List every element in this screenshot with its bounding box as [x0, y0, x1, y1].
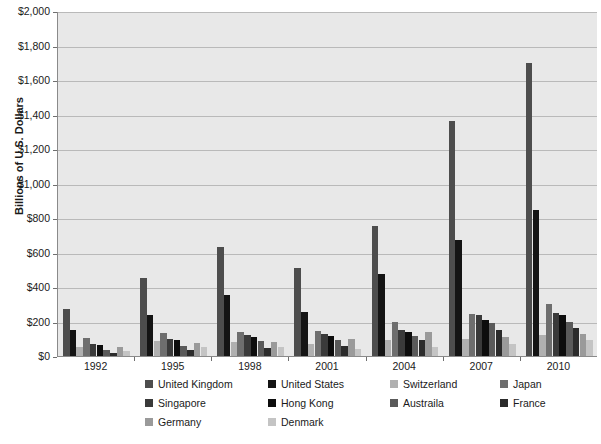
bar	[187, 350, 194, 356]
legend-row: SingaporeHong KongAustrailaFrance	[0, 395, 601, 414]
bar	[573, 328, 580, 356]
x-axis-tick-label: 1992	[56, 360, 136, 372]
bar	[174, 340, 181, 356]
bar	[231, 342, 238, 356]
legend-item[interactable]: United States	[268, 378, 344, 390]
bar-group	[449, 12, 516, 356]
legend-item[interactable]: Germany	[145, 416, 201, 428]
legend-swatch-icon	[268, 418, 276, 426]
x-axis-tick	[211, 357, 212, 361]
bar	[201, 347, 208, 356]
bar	[328, 336, 335, 356]
bar	[123, 351, 130, 356]
bar	[476, 315, 483, 356]
bar	[301, 312, 308, 356]
bar	[194, 343, 201, 356]
bar	[63, 309, 70, 356]
x-axis-tick	[443, 357, 444, 361]
bar	[315, 331, 322, 356]
legend-item[interactable]: Singapore	[145, 397, 206, 409]
bar	[533, 210, 540, 356]
bar	[412, 336, 419, 356]
bar	[167, 339, 174, 356]
legend-swatch-icon	[390, 380, 398, 388]
legend-item[interactable]: Switzerland	[390, 378, 457, 390]
legend-item[interactable]: United Kingdom	[145, 378, 233, 390]
bar	[392, 322, 399, 357]
bar	[348, 339, 355, 356]
bar	[425, 332, 432, 356]
x-axis-tick-label: 2004	[364, 360, 444, 372]
bar	[97, 345, 104, 356]
bar-group	[526, 12, 593, 356]
legend-label: Austraila	[403, 397, 444, 409]
bar	[140, 278, 147, 356]
legend-item[interactable]: Austraila	[390, 397, 444, 409]
legend-item[interactable]: Japan	[500, 378, 542, 390]
bar	[419, 340, 426, 356]
y-axis-tick-label: $400	[0, 282, 50, 292]
bar	[553, 313, 560, 356]
bar	[264, 348, 271, 356]
legend-label: Japan	[513, 378, 542, 390]
bar	[110, 353, 117, 356]
legend-label: Denmark	[281, 416, 324, 428]
bar	[449, 121, 456, 356]
bar-groups	[58, 12, 597, 356]
legend-label: Germany	[158, 416, 201, 428]
bar	[90, 344, 97, 356]
bar	[496, 330, 503, 356]
y-axis-tick-label: $1,800	[0, 41, 50, 51]
x-axis-tick-label: 1998	[210, 360, 290, 372]
y-axis-tick-label: $1,000	[0, 179, 50, 189]
chart-legend: United KingdomUnited StatesSwitzerlandJa…	[0, 376, 601, 444]
x-axis-tick-label: 1995	[133, 360, 213, 372]
x-axis-tick	[520, 357, 521, 361]
x-axis-tick-label: 2001	[287, 360, 367, 372]
bar	[237, 332, 244, 356]
bar	[455, 240, 462, 356]
y-axis-tick-label: $2,000	[0, 6, 50, 16]
bar	[526, 63, 533, 356]
legend-item[interactable]: Denmark	[268, 416, 324, 428]
bar	[462, 339, 469, 356]
legend-swatch-icon	[145, 418, 153, 426]
bar	[278, 347, 285, 356]
bar	[83, 338, 90, 356]
bar	[385, 340, 392, 356]
legend-item[interactable]: Hong Kong	[268, 397, 334, 409]
x-axis-tick-label: 2010	[518, 360, 598, 372]
bar	[271, 342, 278, 356]
bar	[258, 341, 265, 356]
legend-swatch-icon	[500, 399, 508, 407]
bar	[509, 344, 516, 356]
bar	[502, 337, 509, 356]
plot-area	[57, 12, 597, 357]
legend-label: Singapore	[158, 397, 206, 409]
bar	[398, 330, 405, 356]
bar	[308, 344, 315, 356]
y-axis-tick-label: $0	[0, 351, 50, 361]
y-axis-tick-label: $1,400	[0, 110, 50, 120]
x-axis-tick	[288, 357, 289, 361]
bar-group	[217, 12, 284, 356]
bar-chart: Billions of U.S. Dollars $0$200$400$600$…	[0, 0, 601, 444]
bar-group	[372, 12, 439, 356]
x-axis-tick-label: 2007	[441, 360, 521, 372]
bar	[217, 247, 224, 356]
legend-row: GermanyDenmark	[0, 414, 601, 433]
y-axis-tick-label: $200	[0, 317, 50, 327]
legend-label: Switzerland	[403, 378, 457, 390]
bar	[244, 335, 251, 356]
legend-row: United KingdomUnited StatesSwitzerlandJa…	[0, 376, 601, 395]
legend-item[interactable]: France	[500, 397, 546, 409]
bar	[482, 320, 489, 356]
bar	[432, 347, 439, 356]
bar	[546, 304, 553, 356]
bar	[154, 341, 161, 356]
bar	[335, 340, 342, 356]
y-axis-tick-label: $800	[0, 213, 50, 223]
x-axis-tick	[366, 357, 367, 361]
bar	[76, 347, 83, 356]
bar	[372, 226, 379, 356]
